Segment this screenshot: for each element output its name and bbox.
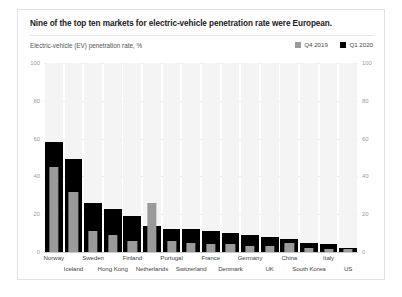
bar-q4-2019[interactable] <box>304 248 313 252</box>
bar-q4-2019[interactable] <box>206 244 215 252</box>
y-axis-tick-label-right: 60 <box>362 136 376 142</box>
bar-q4-2019[interactable] <box>128 241 137 252</box>
y-axis-tick-label-right: 100 <box>362 60 376 66</box>
bar-track <box>202 63 220 252</box>
bar-q4-2019[interactable] <box>226 244 235 252</box>
y-axis-tick-label-left: 40 <box>26 173 40 179</box>
y-axis-tick-label-left: 80 <box>26 98 40 104</box>
bar-group[interactable] <box>280 63 298 252</box>
chart-card: Nine of the top ten markets for electric… <box>17 9 385 280</box>
legend-swatch-q4-2019 <box>295 42 301 48</box>
bar-group[interactable] <box>339 63 357 252</box>
bar-q4-2019[interactable] <box>49 167 58 252</box>
bar-group[interactable] <box>65 63 83 252</box>
y-axis-tick-label-right: 40 <box>362 173 376 179</box>
bar-group[interactable] <box>182 63 200 252</box>
bar-series-container <box>44 63 358 252</box>
bar-track <box>222 63 240 252</box>
bar-track <box>320 63 338 252</box>
y-axis-tick-label-left: 60 <box>26 136 40 142</box>
y-axis-tick-label-left: 20 <box>26 211 40 217</box>
bar-group[interactable] <box>261 63 279 252</box>
legend-label: Q4 2019 <box>304 41 328 48</box>
y-axis-tick-label-right: 0 <box>362 249 376 255</box>
bar-group[interactable] <box>202 63 220 252</box>
legend-label: Q1 2020 <box>349 41 373 48</box>
plot-area: 002020404060608080100100 <box>44 63 358 252</box>
x-axis-label-denmark: Denmark <box>218 265 242 272</box>
bar-track <box>261 63 279 252</box>
bar-q4-2019[interactable] <box>187 243 196 252</box>
bar-q4-2019[interactable] <box>108 235 117 252</box>
bar-q4-2019[interactable] <box>344 249 353 252</box>
bar-group[interactable] <box>45 63 63 252</box>
x-axis-label-south-korea: South Korea <box>292 265 325 272</box>
bar-track <box>300 63 318 252</box>
bar-group[interactable] <box>320 63 338 252</box>
bar-track <box>163 63 181 252</box>
x-axis-label-finland: Finland <box>122 254 142 261</box>
y-axis-tick-label-left: 100 <box>26 60 40 66</box>
bar-q4-2019[interactable] <box>167 241 176 252</box>
legend-item[interactable]: Q1 2020 <box>340 41 373 48</box>
x-axis-label-netherlands: Netherlands <box>136 265 168 272</box>
bar-group[interactable] <box>123 63 141 252</box>
x-axis-label-norway: Norway <box>44 254 64 261</box>
bar-q4-2019[interactable] <box>285 243 294 252</box>
bar-track <box>280 63 298 252</box>
y-axis-tick-label-right: 80 <box>362 98 376 104</box>
bar-group[interactable] <box>104 63 122 252</box>
chart-title: Nine of the top ten markets for electric… <box>30 19 375 29</box>
gridline <box>44 252 358 253</box>
bar-q4-2019[interactable] <box>324 249 333 252</box>
legend-swatch-q1-2020 <box>340 42 346 48</box>
legend-item[interactable]: Q4 2019 <box>295 41 328 48</box>
x-axis-label-iceland: Iceland <box>64 265 83 272</box>
chart-subtitle: Electric-vehicle (EV) penetration rate, … <box>30 42 142 49</box>
title-divider <box>30 35 374 36</box>
y-axis-tick-label-left: 0 <box>26 249 40 255</box>
bar-track <box>182 63 200 252</box>
bar-group[interactable] <box>241 63 259 252</box>
x-axis-label-sweden: Sweden <box>82 254 104 261</box>
bar-group[interactable] <box>300 63 318 252</box>
bar-group[interactable] <box>163 63 181 252</box>
x-axis-label-hong-kong: Hong Kong <box>98 265 128 272</box>
bar-q4-2019[interactable] <box>69 192 78 252</box>
x-axis-labels: NorwayIcelandSwedenHong KongFinlandNethe… <box>44 254 358 278</box>
bar-q4-2019[interactable] <box>88 231 97 252</box>
bar-q4-2019[interactable] <box>147 203 156 252</box>
bar-group[interactable] <box>84 63 102 252</box>
x-axis-label-us: US <box>344 265 352 272</box>
x-axis-label-italy: Italy <box>323 254 334 261</box>
x-axis-label-germany: Germany <box>238 254 263 261</box>
bar-track <box>339 63 357 252</box>
x-axis-label-portugal: Portugal <box>160 254 182 261</box>
x-axis-label-uk: UK <box>265 265 273 272</box>
chart-legend: Q4 2019Q1 2020 <box>295 41 373 48</box>
bar-track <box>241 63 259 252</box>
x-axis-label-france: France <box>201 254 220 261</box>
x-axis-label-china: China <box>281 254 297 261</box>
x-axis-label-switzerland: Switzerland <box>176 265 207 272</box>
bar-q4-2019[interactable] <box>245 246 254 252</box>
bar-group[interactable] <box>222 63 240 252</box>
bar-q4-2019[interactable] <box>265 246 274 252</box>
bar-group[interactable] <box>143 63 161 252</box>
y-axis-tick-label-right: 20 <box>362 211 376 217</box>
